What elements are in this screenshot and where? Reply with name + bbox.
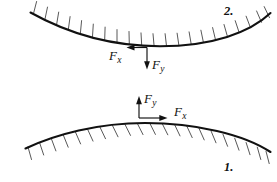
upper-fx-label: Fx [109,49,121,65]
upper-surface-curve [31,13,271,47]
lower-fy-arrow-head [136,96,142,104]
upper-fy-label: Fy [152,58,164,74]
upper-hatch-marks [33,2,269,47]
lower-surface-curve [26,123,271,152]
lower-surface-group [26,123,271,164]
lower-fy-label: Fy [144,92,156,108]
physics-force-diagram: Fx Fy Fy Fx 2. 1. [0,0,277,182]
lower-fx-label: Fx [174,105,186,121]
lower-diagram-index-label: 1. [224,161,233,174]
diagram-canvas [0,0,277,182]
lower-hatch-marks [28,123,269,164]
upper-force-vectors [127,45,150,70]
upper-surface-group [31,2,271,47]
lower-fx-arrow-head [159,115,167,121]
upper-diagram-index-label: 2. [224,5,233,18]
upper-fy-arrow-head [144,61,150,69]
